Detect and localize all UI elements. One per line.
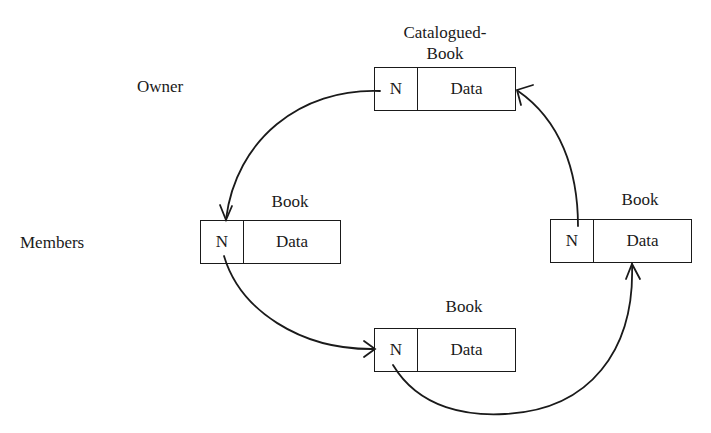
link-arrows [0, 0, 711, 433]
link-arrow-left-to-bottom [224, 256, 374, 349]
link-arrow-catalogued-to-left [226, 91, 380, 219]
link-arrow-bottom-to-right [393, 264, 632, 414]
link-arrow-right-to-catalogued [518, 91, 578, 226]
arrowhead-icon [220, 205, 232, 220]
